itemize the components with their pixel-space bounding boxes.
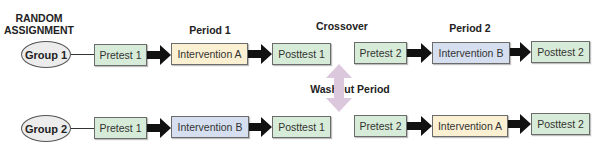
group2-connector [71, 128, 94, 129]
group1-intervention-b-box: Intervention B [432, 42, 510, 64]
group2-posttest1-box: Posttest 1 [272, 116, 331, 138]
group2-pretest2-box: Pretest 2 [354, 115, 407, 137]
arrow-right-icon [407, 116, 432, 136]
group1-connector [71, 54, 94, 55]
group1-pretest2-box: Pretest 2 [354, 42, 407, 64]
period1-label: Period 1 [180, 24, 240, 36]
group1-posttest2-box: Posttest 2 [531, 41, 590, 63]
crossover-label: Crossover [307, 20, 377, 32]
random-label-line2: ASSIGNMENT [4, 24, 74, 36]
group2-pretest1-box: Pretest 1 [94, 117, 147, 139]
arrow-right-icon [147, 45, 171, 65]
group1-posttest1-box: Posttest 1 [272, 43, 331, 65]
group1-pretest1-box: Pretest 1 [94, 44, 147, 66]
random-label-line1: RANDOM [4, 12, 74, 24]
group1-node: Group 1 [21, 41, 71, 68]
arrow-right-icon [508, 114, 531, 134]
arrow-right-icon [147, 118, 171, 138]
period2-label: Period 2 [440, 22, 500, 34]
group2-intervention-a-box: Intervention A [432, 115, 508, 137]
group1-intervention-a-box: Intervention A [171, 43, 248, 65]
random-assignment-label: RANDOM ASSIGNMENT [4, 12, 74, 36]
arrow-right-icon [249, 117, 272, 137]
arrow-right-icon [510, 42, 531, 62]
arrow-right-icon [407, 43, 432, 63]
group2-node: Group 2 [21, 115, 71, 142]
arrow-right-icon [248, 44, 272, 64]
group2-intervention-b-box: Intervention B [171, 116, 249, 138]
group2-posttest2-box: Posttest 2 [531, 113, 590, 135]
washout-double-arrow-icon [326, 64, 352, 112]
